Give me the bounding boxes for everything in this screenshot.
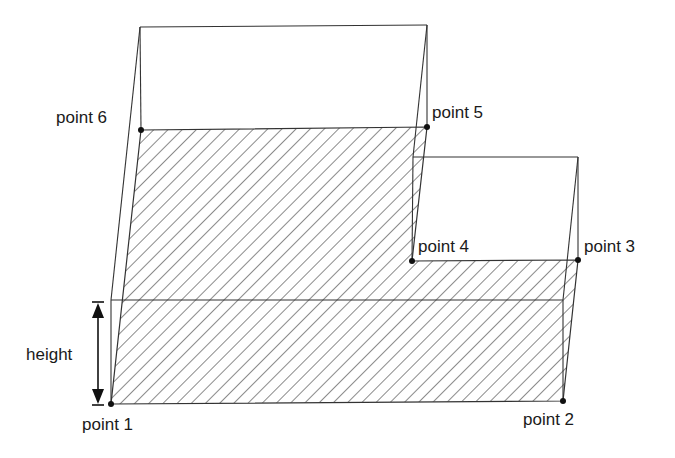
point-4-label: point 4 bbox=[418, 237, 469, 256]
point-6-label: point 6 bbox=[56, 108, 107, 127]
point-3-label: point 3 bbox=[584, 237, 635, 256]
point-5-label: point 5 bbox=[432, 103, 483, 122]
point-6-marker bbox=[138, 127, 144, 133]
point-4-marker bbox=[409, 258, 415, 264]
extrusion-diagram: height point 1 point 2 point 3 point 4 p… bbox=[0, 0, 675, 458]
point-1-marker bbox=[108, 401, 114, 407]
hatched-footprint bbox=[111, 127, 578, 404]
point-3-marker bbox=[575, 257, 581, 263]
point-2-label: point 2 bbox=[523, 410, 574, 429]
point-1-label: point 1 bbox=[82, 415, 133, 434]
point-2-marker bbox=[560, 398, 566, 404]
height-dimension-arrow bbox=[92, 302, 104, 405]
height-label: height bbox=[26, 345, 73, 364]
point-5-marker bbox=[424, 124, 430, 130]
